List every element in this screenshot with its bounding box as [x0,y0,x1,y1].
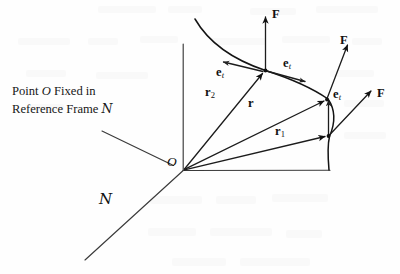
vector-label-r1: r1 [275,125,285,139]
caption-text: Point O Fixed in Reference Frame N [12,82,113,119]
origin-label: O [167,155,177,169]
et-lower-sub: t [339,92,342,102]
vector-r1-arrow [185,137,326,170]
vector-label-r1-sub: 1 [281,129,285,139]
axis-oblique [85,171,183,261]
vector-label-r-bold: r [248,96,254,110]
vector-r-arrow [185,101,325,169]
caption-line2-prefix: Reference Frame [12,102,102,116]
caption-line1-prefix: Point [12,84,42,98]
caption-leader-line [102,131,174,166]
vector-label-r2-sub: 2 [211,90,215,100]
caption-line1-italic-O: O [42,84,51,98]
page-bleedthrough-texture [18,6,386,266]
caption-line2-script-n: N [102,101,113,116]
vector-label-r2: r2 [205,86,215,100]
force-label-middle: F [340,34,348,47]
figure-canvas: Point O Fixed in Reference Frame N O N r… [0,0,400,274]
caption-line-1: Point O Fixed in [12,82,113,100]
et-upper-right-sub: t [289,61,292,71]
force-label-top: F [272,8,280,21]
et-upper-right-arrow [267,71,306,82]
tangent-label-et-upper-right: et [283,57,291,71]
force-label-right: F [377,87,385,100]
caption-line1-suffix: Fixed in [51,84,96,98]
vector-label-r: r [248,97,254,111]
reference-frame-label: N [99,192,112,208]
caption-line-2: Reference Frame N [12,100,113,118]
tangent-label-et-upper-left: et [216,66,224,80]
tangent-label-et-lower: et [333,88,341,102]
et-upper-left-sub: t [222,70,225,80]
